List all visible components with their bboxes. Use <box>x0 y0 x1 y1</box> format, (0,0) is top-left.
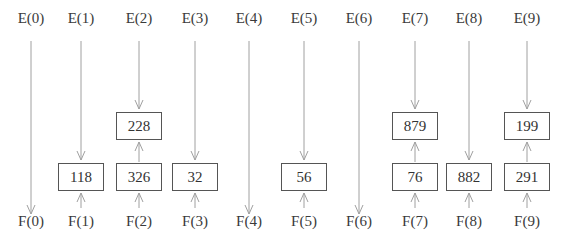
lower-box-3: 32 <box>172 163 218 191</box>
e-label-6: E(6) <box>346 10 373 27</box>
f-label-7: F(7) <box>402 213 428 230</box>
upper-box-2: 228 <box>116 112 162 140</box>
merge-diagram: E(0)F(0)E(1)F(1)118E(2)F(2)326228E(3)F(3… <box>0 0 567 241</box>
lower-box-2: 326 <box>116 163 162 191</box>
upper-box-9: 199 <box>504 112 550 140</box>
f-label-4: F(4) <box>236 213 262 230</box>
f-label-9: F(9) <box>514 213 540 230</box>
lower-box-5: 56 <box>281 163 327 191</box>
e-label-7: E(7) <box>402 10 429 27</box>
f-label-3: F(3) <box>182 213 208 230</box>
e-label-1: E(1) <box>68 10 95 27</box>
f-label-1: F(1) <box>68 213 94 230</box>
upper-box-7: 879 <box>392 112 438 140</box>
f-label-5: F(5) <box>291 213 317 230</box>
e-label-5: E(5) <box>291 10 318 27</box>
e-label-9: E(9) <box>514 10 541 27</box>
f-label-0: F(0) <box>18 213 44 230</box>
lower-box-1: 118 <box>58 163 104 191</box>
arrows-layer <box>0 0 567 241</box>
lower-box-8: 882 <box>446 163 492 191</box>
f-label-6: F(6) <box>346 213 372 230</box>
f-label-8: F(8) <box>456 213 482 230</box>
e-label-4: E(4) <box>236 10 263 27</box>
f-label-2: F(2) <box>126 213 152 230</box>
lower-box-9: 291 <box>504 163 550 191</box>
e-label-0: E(0) <box>18 10 45 27</box>
e-label-3: E(3) <box>182 10 209 27</box>
e-label-2: E(2) <box>126 10 153 27</box>
e-label-8: E(8) <box>456 10 483 27</box>
lower-box-7: 76 <box>392 163 438 191</box>
